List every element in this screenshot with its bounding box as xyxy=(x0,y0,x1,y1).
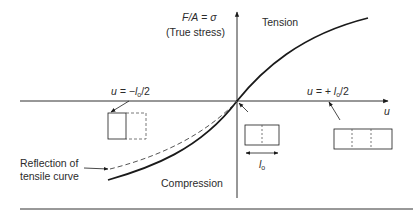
reflected-tensile-curve xyxy=(110,101,237,169)
y-axis-label: F/A = σ xyxy=(182,11,217,23)
tension-label: Tension xyxy=(262,16,298,28)
origin-arrow xyxy=(239,103,248,112)
left-marker-label: u = −lo/2 xyxy=(111,85,150,98)
reflection-label-line1: Reflection of xyxy=(20,157,78,169)
right-marker-arrow xyxy=(329,102,340,120)
stretched-specimen xyxy=(334,129,392,149)
x-axis-label: u xyxy=(384,105,390,117)
y-axis-sublabel: (True stress) xyxy=(166,26,225,38)
stress-strain-diagram: F/A = σ (True stress) Tension Compressio… xyxy=(0,0,415,214)
compressed-specimen xyxy=(108,113,146,139)
reference-length-label: lo xyxy=(259,158,265,171)
reflection-arrow xyxy=(84,168,108,169)
compression-label: Compression xyxy=(161,177,223,189)
reflection-label-line2: tensile curve xyxy=(20,170,79,182)
right-marker-label: u = + lo/2 xyxy=(307,85,349,98)
left-marker-arrow xyxy=(111,101,129,112)
true-stress-curve xyxy=(108,18,368,180)
reference-specimen xyxy=(245,125,279,145)
